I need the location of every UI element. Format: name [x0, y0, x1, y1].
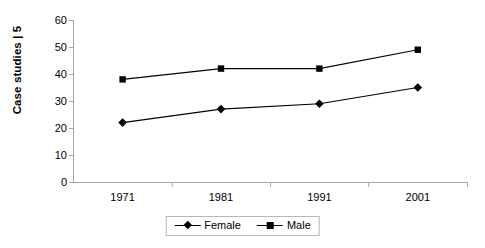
male-line	[123, 50, 418, 80]
axis-lines	[73, 20, 468, 183]
x-tick-2001: 2001	[388, 192, 448, 203]
diamond-marker-icon	[174, 221, 200, 231]
x-tick-1991: 1991	[289, 192, 349, 203]
chart-legend: Female Male	[165, 216, 320, 236]
legend-item-female[interactable]: Female	[174, 220, 241, 231]
female-line	[123, 88, 418, 123]
square-marker-icon	[257, 221, 283, 231]
plot-area	[0, 0, 485, 248]
male-point-1991	[316, 65, 322, 71]
line-chart: Case studies | 5 60 50 40 30 20 10 0	[0, 0, 485, 248]
y-axis-ticks	[69, 21, 73, 183]
female-point-1991	[315, 99, 324, 108]
male-point-2001	[415, 47, 421, 53]
male-point-1971	[119, 76, 125, 82]
legend-item-male[interactable]: Male	[257, 220, 311, 231]
female-point-1971	[118, 118, 127, 127]
female-point-1981	[217, 105, 226, 114]
legend-label-female: Female	[204, 220, 241, 231]
series-female	[118, 83, 422, 127]
female-point-2001	[414, 83, 423, 92]
x-tick-1981: 1981	[191, 192, 251, 203]
series-male	[119, 47, 421, 83]
male-point-1981	[218, 65, 224, 71]
x-tick-1971: 1971	[93, 192, 153, 203]
legend-label-male: Male	[287, 220, 311, 231]
